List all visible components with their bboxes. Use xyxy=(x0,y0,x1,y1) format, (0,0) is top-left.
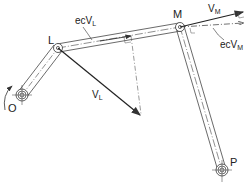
vl-projection-dashed xyxy=(131,36,141,114)
coupler-link-lm xyxy=(57,23,181,52)
ecvl-leader xyxy=(83,27,92,40)
label-ecvl: ecVL xyxy=(75,15,96,27)
label-o: O xyxy=(8,102,17,114)
label-ecvm: ecVM xyxy=(220,39,243,51)
velocity-vector-vm xyxy=(180,12,243,27)
right-angle-mark-m2 xyxy=(190,28,195,33)
velocity-vector-vl xyxy=(58,48,140,115)
linkage-diagram: L M O P ecVL VL VM ecVM xyxy=(0,0,249,186)
ground-pivot-p xyxy=(212,160,232,182)
label-l: L xyxy=(48,34,54,46)
label-vl: VL xyxy=(92,89,103,101)
label-m: M xyxy=(173,8,182,20)
label-p: P xyxy=(230,156,237,168)
label-vm: VM xyxy=(208,3,221,15)
rocker-link-mp xyxy=(176,26,226,171)
